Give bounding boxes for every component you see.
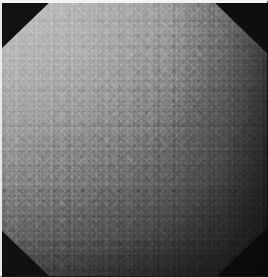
photograph [0, 0, 268, 277]
sensor-grain [0, 0, 268, 277]
image-canvas: Grayscale close-up photograph of a textu… [0, 0, 268, 277]
